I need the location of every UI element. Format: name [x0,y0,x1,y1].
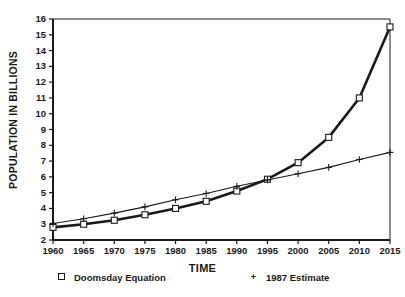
data-point-square [326,134,332,140]
legend-label-doomsday: Doomsday Equation [74,272,166,283]
y-tick-label: 5 [20,188,46,198]
y-tick-label: 6 [20,172,46,182]
y-tick-label: 9 [20,125,46,135]
y-tick-label: 14 [20,46,46,56]
legend-label-estimate: 1987 Estimate [266,272,329,283]
data-point-square [203,198,209,204]
y-tick-label: 8 [20,140,46,150]
data-point-square [111,217,117,223]
data-point-square [173,205,179,211]
series-line-square [53,27,390,227]
data-point-square [387,24,393,30]
y-tick-label: 13 [20,61,46,71]
legend-item-1987-estimate: + 1987 Estimate [248,272,329,283]
data-point-square [295,160,301,166]
series-line-plus [53,152,390,223]
plus-marker-icon: + [248,273,259,282]
y-tick-label: 4 [20,203,46,213]
square-marker-icon [56,273,67,282]
x-tick-label: 2015 [370,246,405,256]
y-tick-label: 2 [20,235,46,245]
y-tick-label: 7 [20,156,46,166]
y-tick-label: 11 [20,93,46,103]
legend-item-doomsday-equation: Doomsday Equation [56,272,166,283]
y-tick-label: 15 [20,30,46,40]
data-point-square [81,221,87,227]
population-projection-chart: POPULATION IN BILLIONS 16151413121110987… [0,0,405,297]
y-tick-label: 3 [20,219,46,229]
y-tick-label: 10 [20,109,46,119]
y-tick-label: 16 [20,14,46,24]
data-point-square [142,212,148,218]
data-point-square [356,95,362,101]
y-tick-label: 12 [20,77,46,87]
